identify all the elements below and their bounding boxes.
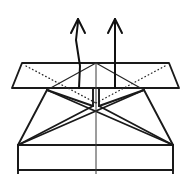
origami-fold-diagram bbox=[0, 0, 191, 174]
figure-root bbox=[0, 0, 191, 174]
